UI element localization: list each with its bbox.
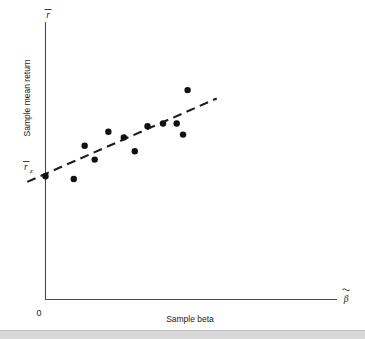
x-axis-label: Sample beta	[166, 314, 214, 324]
x-axis-symbol: β	[342, 289, 350, 304]
data-point	[42, 173, 48, 179]
intercept-label-glyph: r	[24, 162, 28, 172]
y-axis-symbol-glyph: r	[46, 10, 50, 20]
intercept-label: r z	[23, 162, 33, 176]
data-point	[180, 131, 186, 137]
data-point	[160, 120, 166, 126]
fitted-regression-line	[27, 98, 216, 181]
y-axis-symbol: r	[45, 10, 52, 21]
data-point	[144, 123, 150, 129]
data-points-group	[42, 87, 191, 182]
data-point	[121, 134, 127, 140]
x-axis-symbol-glyph: β	[343, 294, 349, 304]
footer-band	[0, 330, 365, 339]
data-point	[81, 143, 87, 149]
x-axis-symbol-tilde	[342, 289, 350, 291]
y-axis-label: Sample mean return	[22, 59, 32, 136]
intercept-label-subscript: z	[29, 167, 33, 175]
data-point	[184, 87, 190, 93]
origin-label: 0	[36, 308, 41, 318]
data-point	[132, 148, 138, 154]
data-point	[91, 156, 97, 162]
data-point	[105, 129, 111, 135]
data-point	[71, 176, 77, 182]
data-point	[173, 120, 179, 126]
